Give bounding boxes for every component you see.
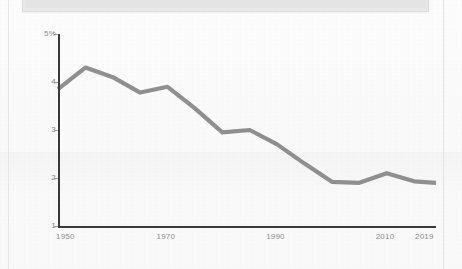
y-tick-mark-3 xyxy=(54,130,58,131)
y-tick-label-1: 1 xyxy=(32,221,56,230)
y-tick-mark-1 xyxy=(54,226,58,227)
page-background: 5%4321 19501970199020102019 xyxy=(0,0,462,269)
y-tick-mark-4 xyxy=(54,82,58,83)
y-tick-label-4: 4 xyxy=(32,77,56,86)
line-chart: 5%4321 19501970199020102019 xyxy=(0,26,462,269)
cropped-header-panel-inner xyxy=(26,0,425,8)
x-tick-label-1990: 1990 xyxy=(266,232,285,241)
y-tick-mark-2 xyxy=(54,178,58,179)
y-tick-label-2: 2 xyxy=(32,173,56,182)
series-line-rate xyxy=(58,68,436,183)
y-axis-tick-labels: 5%4321 xyxy=(26,26,56,269)
x-axis-line xyxy=(58,226,436,228)
x-tick-label-1970: 1970 xyxy=(157,232,176,241)
x-tick-label-2019: 2019 xyxy=(415,232,434,241)
y-tick-label-5: 5% xyxy=(32,29,56,38)
y-tick-mark-5 xyxy=(54,34,58,35)
y-tick-label-3: 3 xyxy=(32,125,56,134)
chart-plot-area: 5%4321 19501970199020102019 xyxy=(0,26,462,269)
y-axis-line xyxy=(58,34,60,228)
cropped-header-panel xyxy=(22,0,429,12)
x-tick-label-1950: 1950 xyxy=(56,232,75,241)
x-tick-label-2010: 2010 xyxy=(376,232,395,241)
